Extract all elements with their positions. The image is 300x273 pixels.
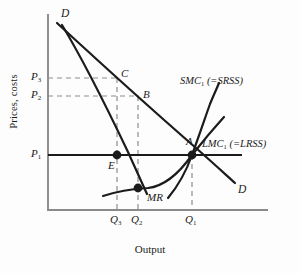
point-label-a: A — [186, 136, 193, 147]
y-axis-label: Prices, costs — [8, 66, 19, 138]
point-label-e: E — [108, 160, 115, 171]
curve-label-d-bottom: D — [238, 184, 246, 196]
point-label-c: C — [121, 68, 128, 79]
point-marker-q2 — [134, 184, 143, 193]
x-tick-q2: Q2 — [131, 214, 142, 225]
economics-diagram-figure: Prices, costs Output P3 P2 P1 Q3 Q2 Q1 D… — [0, 0, 300, 273]
curve-label-d-top: D — [61, 8, 69, 20]
point-label-b: B — [143, 89, 150, 100]
marginal-revenue-curve-mr — [62, 25, 147, 194]
curve-label-mr: MR — [147, 192, 163, 203]
curve-label-smc1: SMC1 (=SRSS) — [180, 76, 243, 87]
plot-canvas — [0, 0, 300, 273]
point-marker-a — [188, 151, 197, 160]
y-tick-p3: P3 — [31, 71, 41, 82]
demand-curve-d — [57, 23, 235, 183]
x-tick-q1: Q1 — [185, 214, 196, 225]
y-tick-p2: P2 — [31, 89, 41, 100]
x-tick-q3: Q3 — [110, 214, 121, 225]
x-axis-label: Output — [0, 243, 300, 255]
curve-label-lmc1: LMC1 (=LRSS) — [202, 139, 266, 150]
y-tick-p1: P1 — [31, 148, 41, 159]
